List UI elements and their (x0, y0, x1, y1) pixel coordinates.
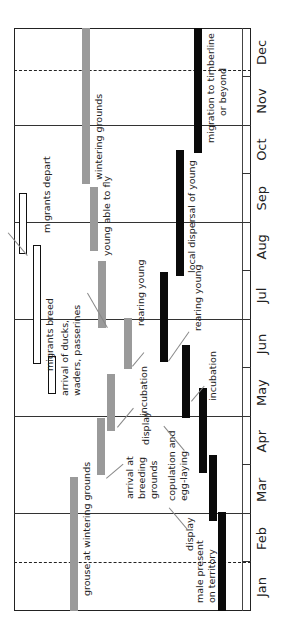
bar-local-dispersal (176, 150, 184, 276)
label-arrival-ducks-2: waders, passerines (71, 305, 82, 396)
month-label: Nov (254, 77, 269, 125)
bar-male-present (218, 512, 226, 611)
month-label: Aug (254, 223, 269, 271)
label-young-able-to-fly: young able to fly (101, 176, 112, 256)
bar-arrival-breeding (97, 418, 105, 475)
label-migrants-breed: migrants breed (44, 298, 55, 371)
month-label: Dec (254, 28, 269, 76)
month-label: Mar (254, 466, 269, 514)
month-label: Jan (254, 563, 269, 611)
bar-incubation-black (182, 345, 190, 418)
month-label: Oct (254, 126, 269, 174)
label-arrival-breeding-3: grounds (148, 460, 159, 499)
label-male-present-1: male present (194, 540, 205, 603)
label-arrival-ducks-1: arrival of ducks, (59, 320, 70, 396)
label-arrival-breeding-2: breeding (136, 457, 147, 499)
label-rearing-young-grey: rearing young (135, 260, 146, 327)
label-grouse-wintering: grouse at wintering grounds (81, 462, 92, 596)
bar-copulation (199, 388, 207, 473)
label-arrival-breeding-1: arrival at (124, 456, 135, 499)
bar-young-able-to-fly (90, 187, 98, 251)
month-label: Sep (254, 174, 269, 222)
label-timberline-1: migration to timberline (205, 33, 216, 143)
month-label: Apr (254, 417, 269, 465)
label-male-present-2: on territory (206, 549, 217, 603)
tick-jun (242, 367, 251, 368)
bar-migrants-breed (33, 245, 41, 364)
label-timberline-2: or beyond (217, 68, 228, 116)
month-label: May (254, 369, 269, 417)
label-local-dispersal: local dispersal of young (186, 160, 197, 273)
label-incubation-black: incubation (207, 351, 218, 401)
tick-oct (242, 173, 251, 174)
month-label: Feb (254, 514, 269, 562)
bar-rearing-young-black (160, 272, 168, 362)
rotated-chart: Jan Feb Mar Apr May Jun Jul Aug Sep Oct … (14, 0, 274, 611)
bar-display-grey (107, 374, 115, 431)
label-rearing-young-black: rearing young (192, 265, 203, 332)
label-copulation-2: egg-laying (178, 451, 189, 501)
tick-aug (242, 270, 251, 271)
bar-migrants-depart (19, 193, 27, 254)
label-wintering-grounds: wintering grounds (93, 94, 104, 180)
gridline-may (14, 416, 251, 417)
bar-wintering-grounds (82, 28, 90, 184)
bar-grouse-wintering (70, 477, 78, 611)
label-display-grey: display (140, 411, 151, 445)
label-migrants-depart: migrants depart (41, 156, 52, 233)
month-label: Jun (254, 320, 269, 368)
bar-incubation-grey (124, 318, 132, 369)
tick-dec (242, 76, 251, 77)
label-display-black: display (184, 517, 195, 551)
label-incubation-grey: incubation (138, 366, 149, 416)
tick-apr (242, 464, 251, 465)
bar-migration-timberline (194, 28, 202, 153)
bar-display-black (209, 455, 217, 521)
month-label: Jul (254, 271, 269, 319)
